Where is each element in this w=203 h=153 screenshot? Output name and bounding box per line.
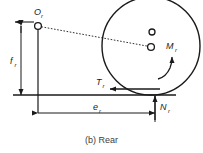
label-moment-Mr: M r xyxy=(166,41,178,53)
label-offset-vertical-fr: f r xyxy=(10,56,18,68)
origin-node-circle xyxy=(35,23,42,30)
label-traction-subscript: r xyxy=(103,83,106,89)
rotation-curved-arrow xyxy=(158,57,172,79)
origin-to-hub-dotted-line xyxy=(41,27,147,46)
label-moment-subscript: r xyxy=(175,47,178,53)
label-offset-vertical-subscript: r xyxy=(15,62,18,68)
label-traction-Tr: T r xyxy=(96,77,106,89)
hub-upper-circle xyxy=(149,29,155,35)
figure-container: O r M r T r N r e r f r (b) Rear xyxy=(0,0,203,153)
label-offset-horizontal-er: e r xyxy=(93,102,102,114)
label-normal-Nr: N r xyxy=(160,102,171,114)
hub-center-circle xyxy=(148,44,155,51)
figure-caption: (b) Rear xyxy=(85,135,118,145)
label-origin-subscript: r xyxy=(41,13,44,19)
label-normal-base: N xyxy=(160,102,167,112)
label-offset-vertical-base: f xyxy=(10,56,14,66)
label-origin-Or: O r xyxy=(34,7,44,19)
label-normal-subscript: r xyxy=(168,108,171,114)
rear-wheel-free-body-diagram: O r M r T r N r e r f r (b) Rear xyxy=(0,0,203,153)
label-offset-horizontal-base: e xyxy=(93,102,98,112)
wheel-circle xyxy=(102,0,200,95)
label-origin-base: O xyxy=(34,7,41,17)
label-moment-base: M xyxy=(166,41,174,51)
